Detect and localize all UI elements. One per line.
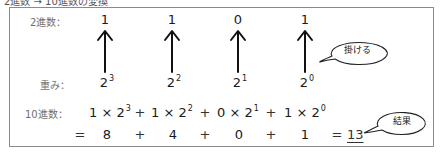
plus-sign: + [135, 105, 146, 120]
multiply-callout: 掛ける [344, 43, 371, 56]
result-callout: 結果 [393, 114, 411, 127]
arrow-up-icon [98, 31, 112, 72]
plus-sign: + [135, 127, 146, 142]
value: 8 [97, 127, 117, 142]
arrow-up-icon [165, 31, 179, 72]
weight-term: 21 [233, 75, 247, 90]
plus-sign: + [266, 105, 277, 120]
plus-sign: + [200, 127, 211, 142]
expression-term: 1 × 23 [89, 105, 131, 120]
weight-term: 20 [300, 75, 314, 90]
value: 1 [295, 127, 315, 142]
arrow-up-icon [298, 31, 312, 72]
arrow-up-icon [231, 31, 245, 72]
result-value: 13 [347, 127, 364, 142]
weight-term: 23 [100, 75, 114, 90]
expression-term: 0 × 21 [217, 105, 259, 120]
equals-sign: = [75, 127, 86, 142]
weight-term: 22 [167, 75, 181, 90]
arrows-and-callouts [0, 0, 445, 157]
value: 0 [229, 127, 249, 142]
equals-sign: = [332, 127, 343, 142]
plus-sign: + [266, 127, 277, 142]
expression-term: 1 × 20 [284, 105, 326, 120]
value: 4 [163, 127, 183, 142]
plus-sign: + [200, 105, 211, 120]
expression-term: 1 × 22 [151, 105, 193, 120]
